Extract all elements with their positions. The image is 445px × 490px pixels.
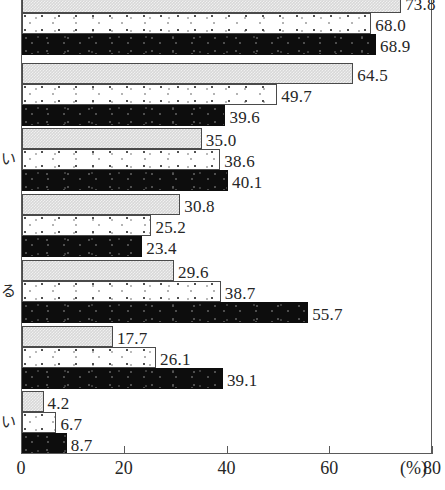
category-label-7: い xyxy=(0,414,16,430)
x-tick-label-60: 60 xyxy=(320,458,338,478)
x-axis-unit-label: (%) xyxy=(400,458,427,478)
category-label-3: い xyxy=(0,151,16,167)
bar-group-3-series-1 xyxy=(22,128,202,149)
value-label-group-2-series-1: 64.5 xyxy=(357,67,388,84)
bar-group-3-series-3 xyxy=(22,170,228,191)
value-label-group-1-series-2: 68.0 xyxy=(375,17,406,34)
x-tick-20 xyxy=(124,446,125,454)
bar-group-2-series-1 xyxy=(22,63,353,84)
value-label-group-3-series-1: 35.0 xyxy=(206,132,237,149)
x-tick-40 xyxy=(227,446,228,454)
bar-group-7-series-3 xyxy=(22,433,67,454)
value-label-group-7-series-1: 4.2 xyxy=(48,395,70,412)
bar-group-1-series-2 xyxy=(22,13,371,34)
bar-group-6-series-3 xyxy=(22,368,223,389)
value-label-group-5-series-2: 38.7 xyxy=(225,285,256,302)
value-label-group-6-series-2: 26.1 xyxy=(160,351,191,368)
value-label-group-7-series-3: 8.7 xyxy=(71,437,93,454)
bar-group-3-series-2 xyxy=(22,149,220,170)
value-label-group-4-series-3: 23.4 xyxy=(146,240,177,257)
value-label-group-1-series-1: 73.8 xyxy=(405,0,436,13)
bar-chart: 73.868.068.964.549.739.635.038.640.1い30.… xyxy=(0,0,445,490)
x-tick-0 xyxy=(21,446,22,454)
x-tick-80 xyxy=(432,446,433,454)
bar-group-7-series-1 xyxy=(22,391,44,412)
bar-group-4-series-1 xyxy=(22,194,180,215)
value-label-group-2-series-2: 49.7 xyxy=(281,88,312,105)
bar-group-1-series-3 xyxy=(22,34,376,55)
value-label-group-1-series-3: 68.9 xyxy=(380,38,411,55)
value-label-group-4-series-2: 25.2 xyxy=(155,219,186,236)
bar-group-5-series-2 xyxy=(22,281,221,302)
value-label-group-5-series-1: 29.6 xyxy=(178,264,209,281)
value-label-group-3-series-3: 40.1 xyxy=(232,174,263,191)
value-label-group-7-series-2: 6.7 xyxy=(60,416,82,433)
value-label-group-6-series-1: 17.7 xyxy=(117,330,148,347)
bar-group-2-series-2 xyxy=(22,84,277,105)
value-label-group-6-series-3: 39.1 xyxy=(227,372,258,389)
value-label-group-2-series-3: 39.6 xyxy=(229,109,260,126)
x-tick-label-40: 40 xyxy=(218,458,236,478)
bars-layer: 73.868.068.964.549.739.635.038.640.1い30.… xyxy=(0,0,445,490)
value-label-group-5-series-3: 55.7 xyxy=(312,306,343,323)
bar-group-1-series-1 xyxy=(22,0,401,13)
value-label-group-3-series-2: 38.6 xyxy=(224,153,255,170)
bar-group-6-series-2 xyxy=(22,347,156,368)
bar-group-6-series-1 xyxy=(22,326,113,347)
bar-group-5-series-3 xyxy=(22,302,308,323)
x-tick-60 xyxy=(329,446,330,454)
bar-group-7-series-2 xyxy=(22,412,56,433)
x-tick-label-0: 0 xyxy=(17,458,26,478)
bar-group-5-series-1 xyxy=(22,260,174,281)
x-tick-label-20: 20 xyxy=(115,458,133,478)
value-label-group-4-series-1: 30.8 xyxy=(184,198,215,215)
bar-group-2-series-3 xyxy=(22,105,225,126)
category-label-5: る xyxy=(0,283,16,299)
bar-group-4-series-2 xyxy=(22,215,151,236)
bar-group-4-series-3 xyxy=(22,236,142,257)
